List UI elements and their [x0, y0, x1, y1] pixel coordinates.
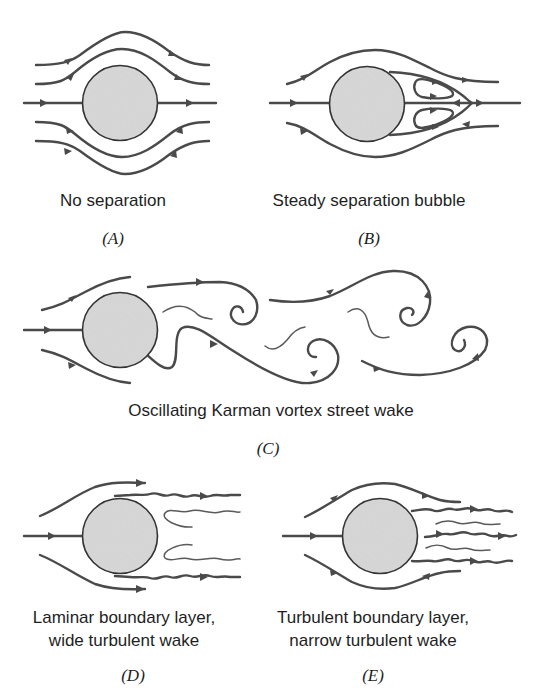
wake-boundary	[412, 559, 512, 563]
panel-a: No separation (A)	[24, 32, 216, 248]
panel-id: (A)	[102, 229, 124, 248]
wake-filament	[164, 545, 240, 560]
wake-filament	[436, 521, 500, 525]
flow-past-cylinder-diagram: No separation (A) Steady separation bubb…	[0, 0, 558, 691]
streamline	[362, 327, 487, 375]
streamline	[270, 271, 430, 326]
wake-filament	[426, 545, 490, 551]
wake-filament	[348, 309, 389, 338]
caption-line: Turbulent boundary layer,	[277, 608, 469, 627]
cylinder	[343, 499, 418, 574]
panel-id: (E)	[362, 666, 384, 685]
wake-filament	[164, 510, 240, 527]
wake-boundary	[412, 508, 512, 512]
cylinder	[83, 66, 158, 141]
cylinder	[330, 67, 405, 142]
panel-d: Laminar boundary layer, wide turbulent w…	[24, 479, 240, 685]
caption-line: No separation	[60, 191, 166, 210]
caption-line: Laminar boundary layer,	[33, 608, 215, 627]
caption-line: narrow turbulent wake	[289, 631, 456, 650]
wake-filament	[265, 327, 305, 349]
panel-e: Turbulent boundary layer, narrow turbule…	[277, 483, 516, 685]
caption-line: Oscillating Karman vortex street wake	[128, 401, 413, 420]
cylinder	[83, 499, 158, 574]
panel-id: (D)	[121, 666, 145, 685]
panel-id: (C)	[257, 439, 280, 458]
panel-c: Oscillating Karman vortex street wake (C…	[24, 271, 487, 458]
wake-boundary	[115, 575, 240, 579]
wake-boundary	[115, 493, 240, 497]
panel-b: Steady separation bubble (B)	[270, 50, 520, 248]
streamline	[145, 327, 338, 383]
caption-line: wide turbulent wake	[48, 631, 199, 650]
panel-id: (B)	[358, 229, 380, 248]
cylinder	[83, 293, 158, 368]
wake-filament	[163, 306, 212, 319]
caption-line: Steady separation bubble	[273, 191, 466, 210]
